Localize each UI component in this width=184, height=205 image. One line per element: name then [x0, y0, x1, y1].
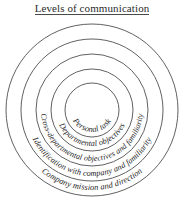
- ring-circle-2: [51, 69, 133, 151]
- ring-labels: Personal task Departmental objectives Cr…: [30, 113, 153, 192]
- ring-label-1: Personal task: [71, 116, 114, 134]
- ring-label-3: Cross-departmental objectives and famili…: [39, 113, 145, 163]
- levels-of-communication-figure: Levels of communication Personal task De…: [0, 0, 184, 205]
- ring-circle-3: [36, 54, 148, 166]
- concentric-circles-diagram: Personal task Departmental objectives Cr…: [0, 0, 184, 205]
- ring-label-2: Departmental objectives: [57, 120, 127, 148]
